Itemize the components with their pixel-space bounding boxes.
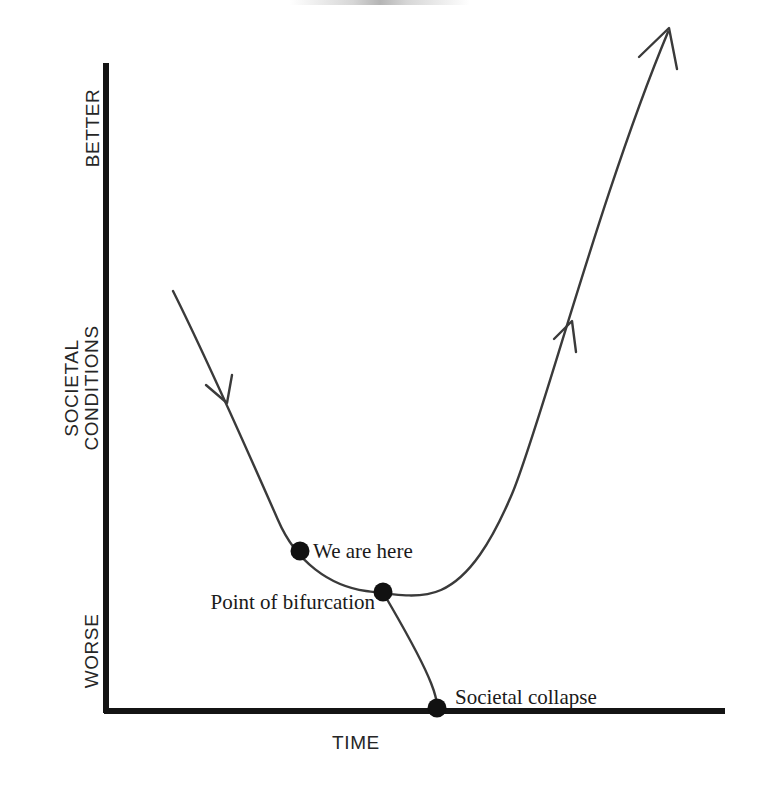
x-axis-label-time: TIME [300, 733, 412, 753]
point-of-bifurcation-marker[interactable] [374, 583, 393, 602]
annotation-point-of-bifurcation: Point of bifurcation [175, 590, 375, 615]
y-axis-label-line2: CONDITIONS [82, 308, 102, 468]
curve-end-arrow-icon [639, 28, 677, 69]
ascending-arrow-icon [554, 321, 576, 352]
we-are-here-marker[interactable] [291, 542, 310, 561]
y-axis-label-societal-conditions: SOCIETAL CONDITIONS [62, 308, 102, 468]
societal-conditions-chart: BETTER SOCIETAL CONDITIONS WORSE TIME We… [0, 0, 764, 796]
y-axis-label-line1: SOCIETAL [61, 339, 82, 436]
y-axis-label-better: BETTER [83, 83, 103, 173]
y-axis-label-worse: WORSE [82, 606, 102, 696]
annotation-we-are-here: We are here [313, 539, 413, 564]
societal-collapse-marker[interactable] [428, 699, 447, 718]
annotation-societal-collapse: Societal collapse [455, 685, 597, 710]
chart-canvas [0, 0, 764, 796]
renewal-curve [173, 32, 668, 595]
collapse-branch-curve [384, 594, 437, 707]
